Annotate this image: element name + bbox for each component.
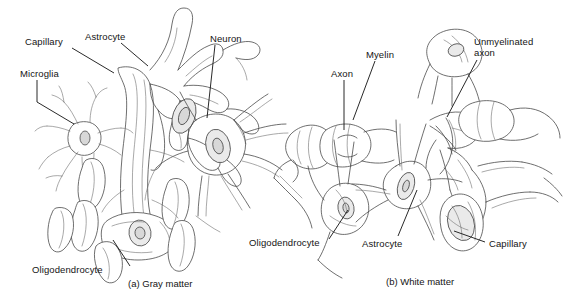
label-axon-white-matter: Axon — [331, 68, 353, 79]
label-oligodendrocyte-white-matter: Oligodendrocyte — [249, 237, 320, 248]
label-astrocyte-gray-matter: Astrocyte — [85, 31, 126, 42]
label-astrocyte-white-matter: Astrocyte — [362, 238, 403, 249]
label-capillary-white-matter: Capillary — [489, 238, 527, 249]
label-neuron-gray-matter: Neuron — [210, 33, 242, 44]
label-microglia-gray-matter: Microglia — [20, 68, 59, 79]
neuroglia-figure: .s { fill:none; stroke:#4a4a4a; stroke-w… — [0, 0, 567, 302]
label-capillary-gray-matter: Capillary — [25, 36, 63, 47]
label-myelin-white-matter: Myelin — [366, 49, 394, 60]
caption-white-matter: (b) White matter — [386, 276, 454, 287]
label-unmyelinated-axon-white-matter: Unmyelinated axon — [474, 36, 540, 58]
caption-gray-matter: (a) Gray matter — [128, 278, 192, 289]
label-oligodendrocyte-gray-matter: Oligodendrocyte — [32, 264, 103, 275]
